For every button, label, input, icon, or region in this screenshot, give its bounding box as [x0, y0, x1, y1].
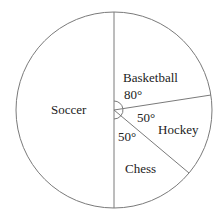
angle-label-basketball: 80° [124, 88, 142, 101]
label-chess: Chess [125, 162, 156, 175]
angle-label-hockey: 50° [137, 111, 155, 124]
pie-chart [0, 0, 220, 219]
label-soccer: Soccer [51, 103, 86, 116]
label-hockey: Hockey [158, 123, 198, 136]
label-basketball: Basketball [123, 71, 178, 84]
angle-label-chess: 50° [118, 130, 136, 143]
